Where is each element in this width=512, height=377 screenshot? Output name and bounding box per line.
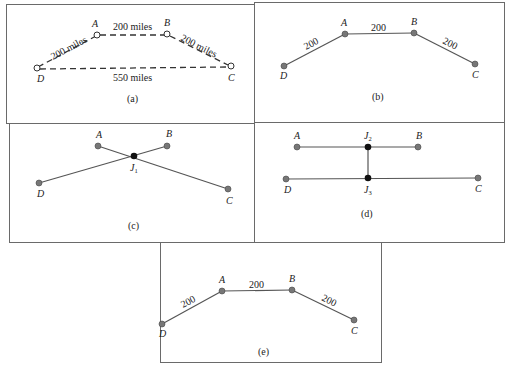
node-b xyxy=(164,143,170,149)
node-a xyxy=(94,32,100,38)
edge-label-dc: 550 miles xyxy=(113,72,152,83)
node-a xyxy=(342,31,348,37)
junction-j3 xyxy=(365,175,372,182)
edge-a-b xyxy=(222,290,292,291)
edge-label-bc: 200 miles xyxy=(179,32,219,60)
edge-label-ab: 200 miles xyxy=(113,21,152,32)
node-d xyxy=(34,65,40,71)
edge-label-ab: 200 xyxy=(249,279,264,290)
panel-b: A B C D 200 200 200 (b) xyxy=(254,2,505,124)
node-d xyxy=(36,180,42,186)
label-j1: J1 xyxy=(130,162,138,174)
edge-d-c xyxy=(286,178,478,179)
panel-a: A B C D 200 miles 200 miles 200 miles 55… xyxy=(6,4,255,124)
network-diagram-d: A B C D J2 J3 (d) xyxy=(255,123,506,244)
label-b: B xyxy=(411,16,417,27)
caption-e: (e) xyxy=(258,346,269,358)
node-c xyxy=(228,63,234,69)
panel-e: A B C D 200 200 200 (e) xyxy=(160,242,382,363)
label-c: C xyxy=(228,72,235,83)
label-d: D xyxy=(283,184,292,195)
node-b xyxy=(164,31,170,37)
label-b: B xyxy=(166,128,172,139)
caption-d: (d) xyxy=(361,208,373,220)
junction-j1 xyxy=(131,153,138,160)
network-diagram-e: A B C D 200 200 200 (e) xyxy=(161,243,383,364)
edge-label-bc: 200 xyxy=(441,35,459,52)
node-a xyxy=(219,288,225,294)
node-b xyxy=(289,287,295,293)
node-c xyxy=(475,175,481,181)
panel-c: A B C D J1 (c) xyxy=(9,123,255,243)
edge-label-bc: 200 xyxy=(320,292,338,309)
edge-label-ab: 200 xyxy=(371,22,386,33)
node-d xyxy=(159,321,165,327)
node-b xyxy=(411,30,417,36)
label-j2: J2 xyxy=(364,130,372,142)
label-a: A xyxy=(95,129,103,140)
node-c xyxy=(472,61,478,67)
node-c xyxy=(351,317,357,323)
node-a xyxy=(294,144,300,150)
label-j3: J3 xyxy=(364,184,372,196)
label-d: D xyxy=(36,73,45,84)
label-b: B xyxy=(416,130,422,141)
edge-label-da: 200 xyxy=(302,35,320,52)
edge-d-c xyxy=(40,67,227,69)
label-c: C xyxy=(351,325,358,336)
edge-label-da: 200 miles xyxy=(49,34,89,62)
edge-a-c xyxy=(98,146,228,189)
label-a: A xyxy=(293,130,301,141)
node-b xyxy=(415,144,421,150)
label-d: D xyxy=(36,188,45,199)
node-c xyxy=(225,186,231,192)
label-d: D xyxy=(158,328,167,339)
label-b: B xyxy=(164,17,170,28)
node-a xyxy=(95,143,101,149)
label-c: C xyxy=(472,69,479,80)
label-d: D xyxy=(279,70,288,81)
network-diagram-c: A B C D J1 (c) xyxy=(10,124,256,244)
label-a: A xyxy=(218,274,226,285)
caption-a: (a) xyxy=(127,93,138,105)
edge-a-b xyxy=(345,33,414,34)
panel-d: A B C D J2 J3 (d) xyxy=(254,122,505,243)
label-a: A xyxy=(91,18,99,29)
network-diagram-a: A B C D 200 miles 200 miles 200 miles 55… xyxy=(7,5,256,125)
label-c: C xyxy=(226,195,233,206)
edge-d-b xyxy=(39,146,167,183)
caption-c: (c) xyxy=(128,220,139,232)
label-b: B xyxy=(289,273,295,284)
junction-j2 xyxy=(365,144,372,151)
label-c: C xyxy=(475,183,482,194)
node-d xyxy=(283,176,289,182)
node-d xyxy=(281,63,287,69)
edge-label-da: 200 xyxy=(179,293,197,310)
network-diagram-b: A B C D 200 200 200 (b) xyxy=(255,3,506,125)
label-a: A xyxy=(340,17,348,28)
caption-b: (b) xyxy=(372,91,384,103)
